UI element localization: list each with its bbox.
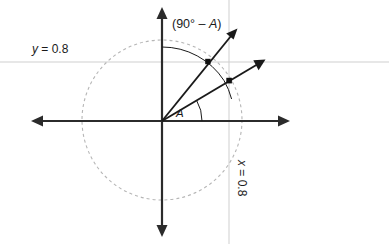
- x-guide-label: x = 0.8: [235, 159, 249, 197]
- y-axis-bottom-arrowhead: [157, 225, 168, 237]
- unit-circle-diagram: (90° – A) A y = 0.8 x = 0.8: [0, 0, 389, 244]
- angle-a-arc: [197, 100, 203, 121]
- point-marker-on-y-guide: [205, 59, 210, 64]
- ray-complementary-angle-arrowhead: [226, 29, 237, 40]
- complementary-angle-arc: [162, 47, 224, 81]
- angle-a-label: A: [175, 107, 184, 119]
- x-axis-left-arrowhead: [31, 116, 43, 127]
- complementary-angle-label-suffix: ): [217, 17, 221, 31]
- point-marker-on-x-guide: [226, 78, 232, 84]
- ray-complementary-angle: [162, 36, 231, 121]
- complementary-angle-label-variable: A: [208, 17, 217, 31]
- complementary-angle-label-prefix: (90° –: [172, 17, 209, 31]
- y-guide-label: y = 0.8: [31, 42, 69, 56]
- x-guide-label-value: = 0.8: [235, 166, 249, 197]
- y-guide-label-value: = 0.8: [38, 42, 69, 56]
- y-axis-top-arrowhead: [157, 7, 168, 19]
- complementary-angle-label: (90° – A): [172, 17, 221, 31]
- x-axis-right-arrowhead: [278, 116, 290, 127]
